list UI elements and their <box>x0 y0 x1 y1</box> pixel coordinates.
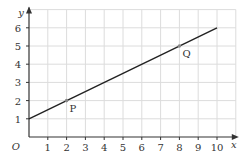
origin-label: O <box>12 141 20 152</box>
point-marker <box>65 99 69 103</box>
labeled-points: PQ <box>65 44 191 113</box>
axes <box>26 7 239 140</box>
point-label: Q <box>182 48 190 59</box>
y-tick-label: 6 <box>15 23 21 34</box>
tick-labels: 12345678910123456Oxy <box>12 7 237 153</box>
grid <box>29 10 236 137</box>
x-axis-label: x <box>231 139 237 150</box>
x-tick-label: 10 <box>211 142 224 153</box>
chart-container: 12345678910123456Oxy PQ <box>0 0 250 168</box>
x-tick-label: 1 <box>45 142 51 153</box>
x-tick-label: 6 <box>139 142 145 153</box>
x-tick-label: 9 <box>195 142 201 153</box>
x-tick-label: 2 <box>63 142 69 153</box>
y-tick-label: 3 <box>15 77 21 88</box>
line-chart: 12345678910123456Oxy PQ <box>0 0 250 168</box>
y-tick-label: 5 <box>15 41 21 52</box>
x-tick-label: 7 <box>157 142 163 153</box>
x-tick-label: 4 <box>101 142 107 153</box>
point-marker <box>178 44 182 48</box>
y-axis-label: y <box>17 7 24 18</box>
y-tick-label: 4 <box>15 59 21 70</box>
y-tick-label: 1 <box>15 114 21 125</box>
point-label: P <box>70 103 77 114</box>
x-tick-label: 3 <box>82 142 88 153</box>
x-tick-label: 8 <box>176 142 182 153</box>
y-tick-label: 2 <box>15 96 21 107</box>
x-tick-label: 5 <box>120 142 126 153</box>
